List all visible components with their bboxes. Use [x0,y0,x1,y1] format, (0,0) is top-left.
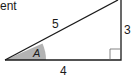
triangle-hypotenuse [5,0,118,60]
hypotenuse-label: 5 [52,18,59,30]
vertical-leg-label: 3 [124,24,131,36]
right-angle-marker [110,49,121,60]
angle-label: A [33,48,40,59]
base-label: 4 [60,65,67,77]
